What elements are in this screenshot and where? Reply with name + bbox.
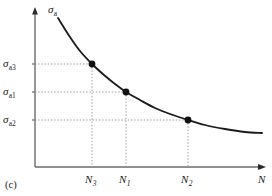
x-axis-label: N — [258, 174, 265, 185]
y-axis-arrowhead — [32, 7, 38, 15]
x-tick-label-n3: N3 — [85, 174, 96, 185]
fatigue-sn-curve-figure: σa N σa3 σa1 σa2 N3 N1 N2 (c) — [0, 0, 272, 196]
tick-sigma-symbol: σ — [3, 57, 8, 69]
tick-n-symbol: N — [181, 173, 188, 185]
tick-n-subscript: 1 — [127, 179, 131, 188]
y-tick-label-sigma-a3: σa3 — [3, 58, 16, 69]
tick-n-symbol: N — [119, 173, 126, 185]
y-axis-label: σa — [48, 4, 57, 15]
tick-sigma-subscript: a3 — [9, 63, 16, 72]
tick-n-subscript: 3 — [93, 179, 97, 188]
y-tick-label-sigma-a1: σa1 — [3, 86, 16, 97]
data-point-point-3 — [89, 61, 96, 68]
tick-n-subscript: 2 — [189, 179, 193, 188]
tick-sigma-symbol: σ — [3, 113, 8, 125]
sn-curve — [58, 18, 262, 133]
y-axis-sigma-subscript: a — [54, 9, 57, 18]
data-point-point-1 — [123, 89, 130, 96]
data-point-point-2 — [185, 117, 192, 124]
x-tick-label-n2: N2 — [181, 174, 192, 185]
tick-n-symbol: N — [85, 173, 92, 185]
y-tick-label-sigma-a2: σa2 — [3, 114, 16, 125]
x-axis-arrowhead — [258, 164, 266, 170]
plot-area — [0, 0, 272, 196]
x-axis-n-symbol: N — [258, 173, 265, 185]
figure-caption: (c) — [5, 180, 17, 191]
tick-sigma-symbol: σ — [3, 85, 8, 97]
y-axis-sigma-symbol: σ — [48, 3, 53, 15]
x-tick-label-n1: N1 — [119, 174, 130, 185]
tick-sigma-subscript: a1 — [9, 91, 16, 100]
tick-sigma-subscript: a2 — [9, 119, 16, 128]
data-point-markers — [89, 61, 192, 124]
